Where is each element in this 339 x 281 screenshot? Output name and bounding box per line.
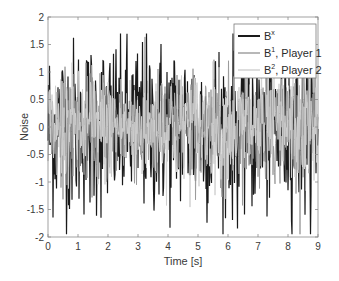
x-tick-label: 4: [165, 241, 171, 252]
y-tick-label: 1.5: [30, 39, 44, 50]
y-tick-label: 2: [38, 12, 44, 23]
x-tick-label: 2: [105, 241, 111, 252]
x-tick-label: 3: [135, 241, 141, 252]
y-tick-label: -1: [35, 177, 44, 188]
noise-chart: 0123456789 -2-1.5-1-0.500.511.52 Time [s…: [0, 0, 339, 281]
y-tick-label: -2: [35, 232, 44, 243]
y-axis-label: Noise: [18, 113, 30, 141]
x-axis-label: Time [s]: [164, 255, 203, 267]
y-tick-label: -0.5: [27, 149, 45, 160]
x-tick-label: 5: [195, 241, 201, 252]
y-tick-label: 1: [38, 67, 44, 78]
x-tick-label: 7: [255, 241, 261, 252]
y-tick-label: -1.5: [27, 204, 45, 215]
x-tick-label: 9: [315, 241, 321, 252]
x-tick-label: 0: [45, 241, 51, 252]
x-tick-label: 8: [285, 241, 291, 252]
y-tick-label: 0: [38, 122, 44, 133]
legend: BxB1, Player 1B2, Player 2: [234, 24, 322, 78]
x-tick-label: 1: [75, 241, 81, 252]
y-tick-label: 0.5: [30, 94, 44, 105]
x-tick-label: 6: [225, 241, 231, 252]
